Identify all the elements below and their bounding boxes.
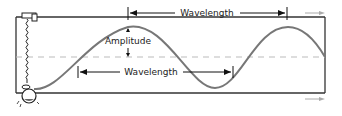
wavelength-bottom-label: Wavelength (124, 67, 177, 77)
wave-diagram: Wavelength Amplitude Wavelength (0, 0, 342, 116)
amplitude-label: Amplitude (105, 36, 152, 46)
wave (34, 26, 325, 89)
spring-clamp-icon (22, 13, 37, 21)
wavelength-top-label: Wavelength (180, 8, 233, 18)
spring-icon (26, 19, 28, 83)
motion-arrow-icon (305, 11, 325, 101)
